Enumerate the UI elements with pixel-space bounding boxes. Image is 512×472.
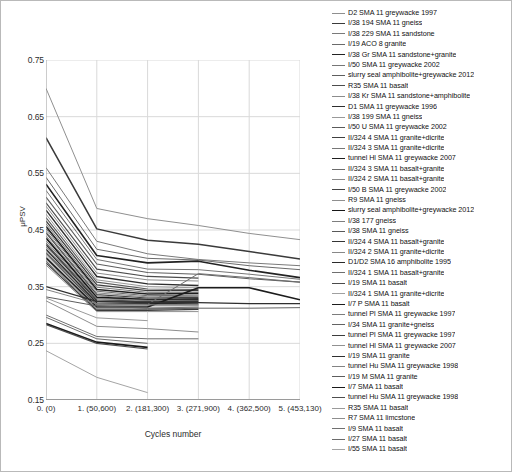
legend-item[interactable]: D1 SMA 11 greywacke 1996: [332, 102, 510, 112]
legend-item[interactable]: tunnel Hu SMA 11 greywacke 1998: [332, 392, 510, 402]
legend-label: I/55 SMA 11 basalt: [348, 444, 407, 454]
legend-label: I/38 177 gneiss: [348, 216, 396, 226]
legend-item[interactable]: slurry seal amphibolite+greywacke 2012: [332, 205, 510, 215]
legend-item[interactable]: II/324 2 SMA 11 granite+dicrite: [332, 247, 510, 257]
legend-swatch-icon: [332, 293, 345, 294]
legend-item[interactable]: II/324 4 SMA 11 basalt+granite: [332, 237, 510, 247]
legend-item[interactable]: I/7 SMA 11 basalt: [332, 382, 510, 392]
legend-item[interactable]: I/38 194 SMA 11 gneiss: [332, 18, 510, 28]
legend-swatch-icon: [332, 366, 345, 367]
legend-item[interactable]: I/7 P SMA 11 basalt: [332, 299, 510, 309]
legend-label: R35 SMA 11 basalt: [348, 81, 408, 91]
legend-item[interactable]: tunnel Hu SMA 11 greywacke 1998: [332, 361, 510, 371]
legend-swatch-icon: [332, 44, 345, 45]
series-line: [46, 88, 300, 239]
legend-swatch-icon: [332, 65, 345, 66]
legend-item[interactable]: I/19 SMA 11 basalt: [332, 278, 510, 288]
legend-item[interactable]: II/324 3 SMA 11 basalt+granite: [332, 164, 510, 174]
legend-item[interactable]: I/55 SMA 11 basalt: [332, 444, 510, 454]
legend-item[interactable]: I/19 ACO 8 granite: [332, 39, 510, 49]
legend-item[interactable]: II/324 1 SMA 11 basalt+granite: [332, 268, 510, 278]
legend-swatch-icon: [332, 96, 345, 97]
legend-swatch-icon: [332, 221, 345, 222]
legend-label: tunnel Hl SMA 11 greywacke 2007: [348, 341, 456, 351]
legend-swatch-icon: [332, 33, 345, 34]
legend-item[interactable]: I/9 SMA 11 basalt: [332, 424, 510, 434]
legend-item[interactable]: tunnel Hl SMA 11 greywacke 2007: [332, 153, 510, 163]
legend-label: II/324 3 SMA 11 basalt+granite: [348, 164, 444, 174]
legend-item[interactable]: II/324 4 SMA 11 granite+dicrite: [332, 133, 510, 143]
legend-item[interactable]: I/19 M SMA 11 granite: [332, 372, 510, 382]
legend-item[interactable]: I/50 SMA 11 greywacke 2002: [332, 60, 510, 70]
gridlines: [46, 60, 300, 400]
legend-label: I/38 SMA 11 gneiss: [348, 226, 409, 236]
legend-item[interactable]: R7 SMA 11 limcstone: [332, 413, 510, 423]
legend-item[interactable]: I/27 SMA 11 basalt: [332, 434, 510, 444]
legend-label: tunnel Hu SMA 11 greywacke 1998: [348, 361, 458, 371]
legend-item[interactable]: I/38 SMA 11 gneiss: [332, 226, 510, 236]
y-axis-title-text: μPSV: [18, 206, 27, 227]
legend-item[interactable]: I/38 Kr SMA 11 sandstone+amphibolite: [332, 91, 510, 101]
legend-item[interactable]: I/34 SMA 11 granite+gneiss: [332, 320, 510, 330]
legend-label: I/19 SMA 11 basalt: [348, 278, 407, 288]
legend-label: I/50 SMA 11 greywacke 2002: [348, 60, 440, 70]
y-axis-title: μPSV: [18, 197, 27, 237]
legend-label: R7 SMA 11 limcstone: [348, 413, 415, 423]
legend-item[interactable]: II/324 2 SMA 11 basalt+granite: [332, 174, 510, 184]
legend-item[interactable]: tunnel Pl SMA 11 greywacke 1997: [332, 330, 510, 340]
y-axis-tick-label: 0.75: [28, 55, 44, 65]
x-axis-tick-label: 1. (50,600): [77, 404, 116, 413]
legend-swatch-icon: [332, 189, 345, 190]
legend-swatch-icon: [332, 85, 345, 86]
legend-label: I/50 B SMA 11 greywacke 2002: [348, 185, 446, 195]
legend-swatch-icon: [332, 13, 345, 14]
legend-item[interactable]: II/324 1 SMA 11 granite+dicrite: [332, 289, 510, 299]
legend-item[interactable]: D2 SMA 11 greywacke 1997: [332, 8, 510, 18]
y-axis-tick-label: 0.55: [28, 168, 44, 178]
legend-item[interactable]: R9 SMA 11 gneiss: [332, 195, 510, 205]
legend-swatch-icon: [332, 169, 345, 170]
legend-label: tunnel Pl SMA 11 greywacke 1997: [348, 309, 455, 319]
legend-item[interactable]: I/38 Gr SMA 11 sandstone+granite: [332, 50, 510, 60]
legend-label: I/9 SMA 11 basalt: [348, 424, 403, 434]
legend-item[interactable]: slurry seal amphibolite+greywacke 2012: [332, 70, 510, 80]
legend-swatch-icon: [332, 210, 345, 211]
legend-item[interactable]: R35 SMA 11 basalt: [332, 81, 510, 91]
legend-swatch-icon: [332, 428, 345, 429]
legend-swatch-icon: [332, 283, 345, 284]
legend-swatch-icon: [332, 324, 345, 325]
x-axis-tick-label: 4. (362,500): [228, 404, 271, 413]
legend-item[interactable]: II/324 3 SMA 11 granite+dicrite: [332, 143, 510, 153]
legend-swatch-icon: [332, 200, 345, 201]
legend-swatch-icon: [332, 252, 345, 253]
legend-item[interactable]: D1/D2 SMA 16 amphibolite 1995: [332, 257, 510, 267]
legend-swatch-icon: [332, 345, 345, 346]
legend-label: R35 SMA 11 basalt: [348, 403, 408, 413]
legend-label: D2 SMA 11 greywacke 1997: [348, 8, 437, 18]
legend-swatch-icon: [332, 75, 345, 76]
legend-item[interactable]: tunnel Hl SMA 11 greywacke 2007: [332, 341, 510, 351]
legend-swatch-icon: [332, 23, 345, 24]
legend-item[interactable]: I/50 U SMA 11 greywacke 2002: [332, 122, 510, 132]
legend-swatch-icon: [332, 148, 345, 149]
legend-item[interactable]: I/19 SMA 11 granite: [332, 351, 510, 361]
legend-item[interactable]: I/38 177 gneiss: [332, 216, 510, 226]
legend-swatch-icon: [332, 449, 345, 450]
legend-label: tunnel Hu SMA 11 greywacke 1998: [348, 392, 458, 402]
legend-item[interactable]: tunnel Pl SMA 11 greywacke 1997: [332, 309, 510, 319]
legend-item[interactable]: I/50 B SMA 11 greywacke 2002: [332, 185, 510, 195]
legend-swatch-icon: [332, 418, 345, 419]
legend-label: I/27 SMA 11 basalt: [348, 434, 407, 444]
x-axis-tick-label: 3. (271,900): [177, 404, 220, 413]
legend-swatch-icon: [332, 231, 345, 232]
legend-item[interactable]: I/38 229 SMA 11 sandstone: [332, 29, 510, 39]
legend-swatch-icon: [332, 387, 345, 388]
plot-area: [46, 60, 300, 400]
legend-swatch-icon: [332, 106, 345, 107]
legend-item[interactable]: I/38 199 SMA 11 gneiss: [332, 112, 510, 122]
y-axis-tick-label: 0.35: [28, 282, 44, 292]
legend-item[interactable]: R35 SMA 11 basalt: [332, 403, 510, 413]
legend-label: I/38 199 SMA 11 gneiss: [348, 112, 422, 122]
legend-swatch-icon: [332, 439, 345, 440]
